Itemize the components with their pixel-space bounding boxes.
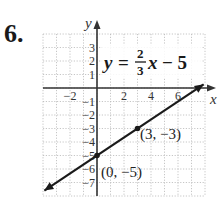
equation-label: y = 2 3 x − 5 bbox=[102, 44, 202, 78]
equation-numerator: 2 bbox=[137, 46, 144, 61]
y-tick-label: −2 bbox=[82, 108, 95, 122]
data-point bbox=[94, 153, 100, 159]
problem-number: 6. bbox=[4, 19, 24, 48]
x-tick-labels: −2246 bbox=[64, 89, 181, 103]
y-tick-labels: 321−1−2−3−4−5−6−7 bbox=[82, 41, 95, 190]
y-tick-label: −4 bbox=[82, 135, 95, 149]
equation-denominator: 3 bbox=[137, 63, 144, 78]
x-axis-label: x bbox=[209, 91, 217, 107]
equation-lhs: y bbox=[102, 52, 113, 73]
point-label-0-neg5: (0, −5) bbox=[101, 164, 142, 181]
y-tick-label: −7 bbox=[82, 176, 95, 190]
graph-figure: 6. x y −2246 321−1−2−3−4−5−6−7 y = 2 3 x… bbox=[0, 0, 223, 206]
equation-variable: x bbox=[147, 52, 158, 73]
x-tick-label: 4 bbox=[148, 89, 154, 103]
x-tick-label: −2 bbox=[64, 89, 77, 103]
equation-equals: = bbox=[118, 52, 129, 73]
x-tick-label: 2 bbox=[121, 89, 127, 103]
line-arrow-icon bbox=[44, 182, 54, 190]
y-axis-arrow-icon bbox=[94, 20, 101, 29]
point-label-3-neg3: (3, −3) bbox=[140, 126, 181, 143]
y-tick-label: 1 bbox=[89, 68, 95, 82]
y-tick-label: 2 bbox=[89, 54, 95, 68]
y-tick-label: −3 bbox=[82, 122, 95, 136]
y-tick-label: 3 bbox=[89, 41, 95, 55]
y-axis-label: y bbox=[83, 15, 92, 31]
equation-rest: − 5 bbox=[162, 52, 187, 73]
y-tick-label: −1 bbox=[82, 95, 95, 109]
